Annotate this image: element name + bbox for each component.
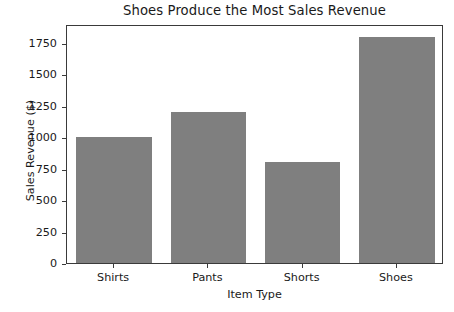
y-tick-mark: [62, 138, 66, 139]
bar-shirts: [76, 137, 151, 263]
y-tick-mark: [62, 44, 66, 45]
y-tick-mark: [62, 201, 66, 202]
bar-shoes: [359, 37, 434, 263]
y-tick-label: 250: [0, 227, 57, 238]
y-tick-mark: [62, 107, 66, 108]
y-axis-label: Sales Revenue ($): [24, 61, 37, 241]
bar-pants: [171, 112, 246, 263]
y-tick-mark: [62, 75, 66, 76]
bar-shorts: [265, 162, 340, 263]
x-axis-label: Item Type: [66, 288, 443, 301]
x-tick-mark: [396, 264, 397, 268]
bar-chart-figure: Shoes Produce the Most Sales Revenue Sal…: [0, 0, 454, 312]
chart-title: Shoes Produce the Most Sales Revenue: [66, 3, 443, 18]
x-tick-label-shoes: Shoes: [336, 271, 454, 284]
y-tick-mark: [62, 170, 66, 171]
x-tick-mark: [113, 264, 114, 268]
bars-layer: [67, 26, 442, 263]
plot-area: [66, 25, 443, 264]
y-tick-label: 1000: [0, 132, 57, 143]
x-tick-mark: [207, 264, 208, 268]
y-tick-mark: [62, 233, 66, 234]
y-tick-mark: [62, 264, 66, 265]
y-tick-label: 750: [0, 164, 57, 175]
y-tick-label: 1750: [0, 38, 57, 49]
y-tick-label: 1250: [0, 101, 57, 112]
y-tick-label: 500: [0, 195, 57, 206]
x-tick-mark: [302, 264, 303, 268]
y-tick-label: 0: [0, 258, 57, 269]
y-tick-label: 1500: [0, 69, 57, 80]
